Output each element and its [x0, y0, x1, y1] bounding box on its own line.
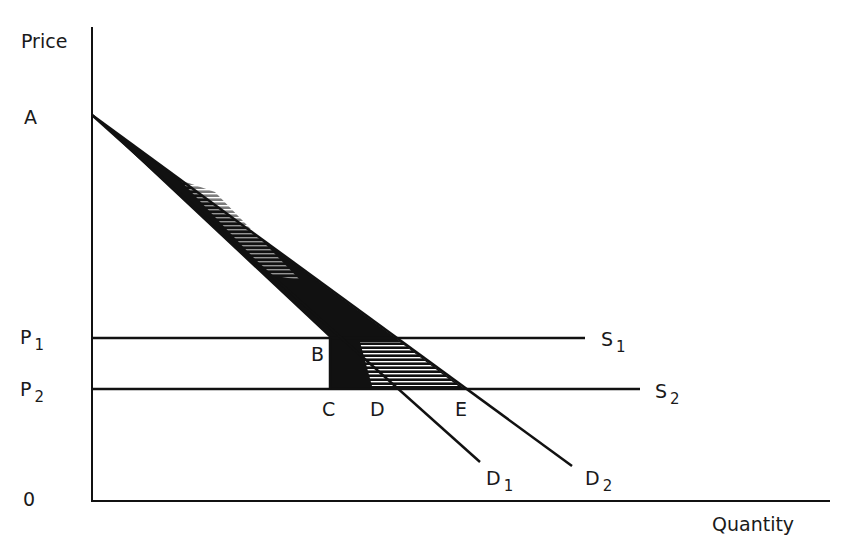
supply-demand-diagram: Price Quantity 0 A B C D E P1 P2 S1 S2 D… — [0, 0, 851, 543]
p1-subscript: 1 — [34, 336, 44, 354]
demand-line-d1 — [92, 115, 480, 462]
point-a-label: A — [24, 108, 37, 127]
d1-letter: D — [486, 467, 501, 489]
demand-d1-label: D1 — [486, 469, 513, 488]
demand-d2-label: D2 — [585, 469, 612, 488]
price-p1-label: P1 — [20, 328, 44, 347]
supply-s1-label: S1 — [601, 330, 626, 349]
point-b-label: B — [311, 345, 324, 364]
s2-subscript: 2 — [670, 390, 680, 408]
point-c-label: C — [322, 400, 335, 419]
hatched-upper-region — [180, 180, 300, 280]
y-axis-label: Price — [21, 32, 67, 51]
point-e-label: E — [455, 400, 467, 419]
d2-subscript: 2 — [603, 477, 613, 495]
point-d-label: D — [370, 400, 385, 419]
p2-letter: P — [20, 378, 31, 400]
s2-letter: S — [655, 380, 667, 402]
p2-subscript: 2 — [34, 388, 44, 406]
s1-letter: S — [601, 328, 613, 350]
s1-subscript: 1 — [616, 338, 626, 356]
p1-letter: P — [20, 326, 31, 348]
origin-label: 0 — [23, 490, 35, 509]
d1-subscript: 1 — [504, 477, 514, 495]
supply-s2-label: S2 — [655, 382, 680, 401]
x-axis-label: Quantity — [712, 515, 794, 534]
diagram-graphics — [0, 0, 851, 543]
d2-letter: D — [585, 467, 600, 489]
price-p2-label: P2 — [20, 380, 44, 399]
